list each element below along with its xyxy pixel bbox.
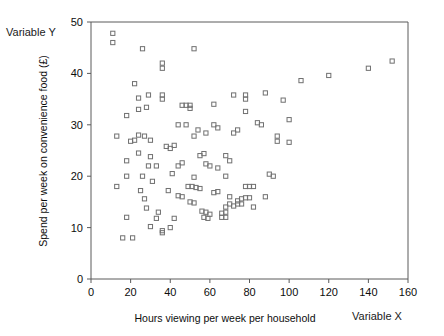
data-point (150, 179, 154, 183)
x-tick-label: 0 (88, 286, 94, 298)
y-tick-label: 0 (77, 273, 83, 285)
x-tick-label: 20 (125, 286, 137, 298)
data-point (160, 93, 164, 97)
y-tick-label: 40 (71, 67, 83, 79)
scatter-plot-figure: Variable Y Variable X Spend per week on … (0, 0, 444, 336)
data-point (275, 139, 279, 143)
data-point (121, 236, 125, 240)
data-point (160, 61, 164, 65)
data-point (192, 47, 196, 51)
data-point (146, 93, 150, 97)
plot-canvas: 02040608010012014016001020304050 (0, 0, 444, 336)
data-point (140, 174, 144, 178)
data-point (172, 216, 176, 220)
data-point (263, 91, 267, 95)
data-point (275, 134, 279, 138)
data-point (138, 188, 142, 192)
data-point (281, 98, 285, 102)
data-point (144, 206, 148, 210)
x-tick-label: 40 (164, 286, 176, 298)
y-tick-label: 10 (71, 222, 83, 234)
data-point (192, 134, 196, 138)
data-point (146, 164, 150, 168)
data-point (170, 172, 174, 176)
data-point (131, 236, 135, 240)
x-tick-label: 120 (320, 286, 338, 298)
data-point (232, 93, 236, 97)
data-point (142, 197, 146, 201)
axis-ticks-group (87, 22, 408, 283)
data-point (136, 151, 140, 155)
axis-tick-labels-group: 02040608010012014016001020304050 (71, 16, 417, 298)
data-points-group (111, 31, 395, 240)
data-point (287, 118, 291, 122)
data-point (287, 140, 291, 144)
data-point (212, 102, 216, 106)
data-point (154, 164, 158, 168)
data-point (299, 79, 303, 83)
data-point (136, 107, 140, 111)
data-point (166, 188, 170, 192)
data-point (196, 128, 200, 132)
x-tick-label: 140 (359, 286, 377, 298)
data-point (390, 59, 394, 63)
x-tick-label: 160 (399, 286, 417, 298)
data-point (204, 131, 208, 135)
data-point (148, 155, 152, 159)
data-point (192, 175, 196, 179)
data-point (366, 66, 370, 70)
data-point (142, 134, 146, 138)
data-point (148, 138, 152, 142)
data-point (251, 205, 255, 209)
data-point (136, 133, 140, 137)
x-tick-label: 60 (204, 286, 216, 298)
data-point (132, 82, 136, 86)
data-point (125, 174, 129, 178)
data-point (184, 123, 188, 127)
y-tick-label: 50 (71, 16, 83, 28)
data-point (160, 66, 164, 70)
x-tick-label: 80 (243, 286, 255, 298)
data-point (136, 96, 140, 100)
data-point (224, 174, 228, 178)
data-point (243, 109, 247, 113)
data-point (115, 134, 119, 138)
data-point (263, 195, 267, 199)
y-tick-label: 20 (71, 170, 83, 182)
data-point (140, 47, 144, 51)
data-point (125, 113, 129, 117)
y-tick-label: 30 (71, 119, 83, 131)
data-point (168, 226, 172, 230)
data-point (115, 184, 119, 188)
data-point (243, 93, 247, 97)
data-point (156, 210, 160, 214)
data-point (243, 97, 247, 101)
x-tick-label: 100 (280, 286, 298, 298)
data-point (125, 159, 129, 163)
data-point (111, 40, 115, 44)
data-point (160, 97, 164, 101)
data-point (176, 123, 180, 127)
data-point (327, 73, 331, 77)
data-point (125, 215, 129, 219)
data-point (148, 224, 152, 228)
data-point (144, 105, 148, 109)
data-point (224, 154, 228, 158)
data-point (216, 166, 220, 170)
data-point (111, 31, 115, 35)
data-point (228, 159, 232, 163)
data-point (154, 216, 158, 220)
data-point (228, 195, 232, 199)
